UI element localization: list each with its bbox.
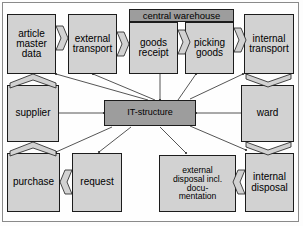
diagram-canvas: article master data external transport c… [0,0,303,226]
arrow-purchase-to-supplier [10,142,56,156]
flow-arrow-layer [0,0,303,226]
arrow-goods-receipt-to-picking-goods [178,30,190,54]
arrow-picking-goods-to-internal-transport [234,28,246,52]
arrow-internal-transport-to-ward [246,74,291,87]
group-header-central-warehouse: central warehouse [129,9,234,22]
arrow-ward-to-internal-disposal [246,142,291,155]
arrow-external-transport-to-goods-receipt [117,32,129,56]
arrow-internal-disposal-to-external-disposal [233,170,245,194]
arrow-supplier-to-article-master-data [10,74,56,88]
group-header-label: central warehouse [143,10,221,21]
arrow-request-to-purchase [60,170,72,194]
arrow-article-master-data-to-external-transport [56,26,68,50]
